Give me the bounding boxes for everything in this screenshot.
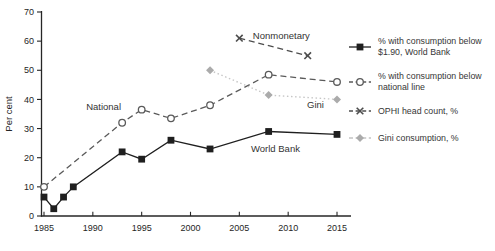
diamond-marker-gini [206, 66, 214, 74]
filled-square-marker-wb-190 [265, 128, 272, 135]
y-tick-label: 40 [24, 95, 34, 105]
open-circle-legend-glyph [357, 78, 364, 85]
open-circle-marker-national-line [207, 102, 214, 109]
filled-square-marker-wb-190 [138, 156, 145, 163]
legend-label: % with consumption below national line [378, 71, 494, 92]
open-circle-marker-national-line [334, 79, 341, 86]
poverty-trends-figure: 0102030405060701985199019952000200520102… [0, 0, 495, 251]
open-circle-marker-national-line [41, 184, 48, 191]
legend-entry-gini: Gini consumption, % [348, 132, 494, 144]
annotation-nonmonetary: Nonmonetary [253, 30, 310, 41]
filled-square-legend-marker-icon [348, 41, 372, 53]
open-circle-legend-marker-icon [348, 76, 372, 88]
x-tick-label: 1985 [34, 223, 54, 233]
y-tick-label: 50 [24, 65, 34, 75]
x-tick-label: 1990 [83, 223, 103, 233]
diamond-marker-gini [265, 91, 273, 99]
filled-square-marker-wb-190 [168, 137, 175, 144]
x-tick-label: 2005 [229, 223, 249, 233]
x-cross-legend-marker-icon [348, 105, 372, 117]
legend-label: % with consumption below $1.90, World Ba… [378, 36, 494, 57]
legend-entry-national-line: % with consumption below national line [348, 71, 494, 92]
annotation-national: National [86, 101, 121, 112]
legend-entry-wb-190: % with consumption below $1.90, World Ba… [348, 36, 494, 57]
y-tick-label: 10 [24, 182, 34, 192]
filled-square-marker-wb-190 [119, 148, 126, 155]
filled-square-legend-glyph [357, 43, 364, 50]
y-axis-title: Per cent [3, 92, 15, 136]
legend-label: Gini consumption, % [378, 133, 494, 144]
open-circle-marker-national-line [119, 119, 126, 126]
series-line-national-line [44, 75, 337, 187]
open-circle-marker-national-line [265, 71, 272, 78]
y-tick-label: 0 [29, 211, 34, 221]
x-tick-label: 1995 [132, 223, 152, 233]
line-chart: 0102030405060701985199019952000200520102… [0, 0, 354, 251]
x-tick-label: 2015 [327, 223, 347, 233]
annotation-gini: Gini [307, 99, 324, 110]
diamond-legend-marker-icon [348, 132, 372, 144]
y-tick-label: 70 [24, 7, 34, 17]
chart-legend: % with consumption below $1.90, World Ba… [348, 0, 495, 251]
y-tick-label: 60 [24, 36, 34, 46]
diamond-legend-glyph [356, 134, 364, 142]
legend-entry-ophi: OPHI head count, % [348, 105, 494, 117]
y-tick-label: 20 [24, 153, 34, 163]
legend-label: OPHI head count, % [378, 106, 494, 117]
x-tick-label: 2010 [278, 223, 298, 233]
filled-square-marker-wb-190 [70, 183, 77, 190]
x-tick-label: 2000 [180, 223, 200, 233]
series-line-ophi [239, 38, 307, 56]
y-tick-label: 30 [24, 124, 34, 134]
filled-square-marker-wb-190 [41, 194, 48, 201]
filled-square-marker-wb-190 [334, 131, 341, 138]
filled-square-marker-wb-190 [60, 194, 67, 201]
diamond-marker-gini [333, 95, 341, 103]
open-circle-marker-national-line [168, 115, 175, 122]
annotation-world-bank: World Bank [251, 143, 300, 154]
filled-square-marker-wb-190 [50, 205, 57, 212]
open-circle-marker-national-line [138, 106, 145, 113]
filled-square-marker-wb-190 [207, 146, 214, 153]
